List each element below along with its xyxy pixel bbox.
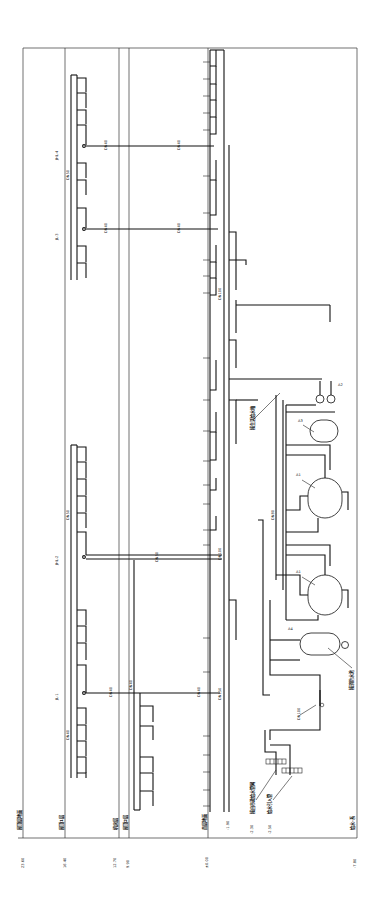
elevation-value: 12.70	[113, 857, 117, 868]
riser-label: JL-3	[55, 233, 59, 241]
elevation-label: 屋顶1层	[58, 814, 65, 830]
elevation-value: -2.30	[250, 824, 254, 834]
pump-a2: A2	[286, 381, 343, 412]
elevation-value: 9.90	[126, 859, 130, 868]
plumbing-riser-diagram: 23.60 屋顶层地面 16.40 屋顶1层 12.70 机房层 9.90 屋顶…	[0, 0, 375, 907]
pipe-size-label: DN50	[66, 169, 70, 180]
elevation-value: 16.40	[63, 857, 67, 868]
elevation-value: -2.50	[268, 824, 272, 834]
tank-a4: A4 接消防水池	[270, 627, 355, 690]
lower-left-branch-group	[134, 560, 153, 810]
tank-a1-upper: A1	[286, 445, 348, 532]
note-label: 接消防水池	[348, 669, 355, 690]
elevation-labels: 23.60 屋顶层地面 16.40 屋顶1层 12.70 机房层 9.90 屋顶…	[16, 782, 357, 868]
tank-feed-pipes	[276, 395, 286, 620]
note-label: 接自市政给水管网	[249, 782, 256, 814]
equipment-tag: A4	[288, 627, 293, 631]
equipment-tag: A1	[296, 570, 301, 574]
equipment-tag: A2	[338, 383, 343, 387]
tank-a3: A3	[298, 419, 338, 442]
pipe-size-label: DN40	[104, 139, 108, 150]
pipe-size-label: DN40	[177, 139, 181, 150]
pipe-size-labels: DN50 DN50 DN40 DN40 DN100 DN100 DN150 DN…	[66, 169, 301, 740]
elevation-label: 屋顶2层	[122, 814, 129, 830]
pipe-size-label: DN100	[218, 547, 222, 560]
elevation-value: -7.80	[353, 858, 357, 868]
tank-a1-lower: A1	[276, 545, 348, 620]
outlet-stubs	[203, 62, 210, 806]
pipe-size-label: DN40	[104, 222, 108, 233]
pipe-size-label: DN100	[218, 287, 222, 300]
pipe-size-label: DN80	[271, 509, 275, 520]
pipe-size-label: DN150	[218, 687, 222, 700]
equipment-tag: A1	[296, 473, 301, 477]
upper-branch-group-top: JHL-4 JL-3 DN40 DN40 DN40 DN40	[55, 75, 218, 280]
pipe-size-label: DN40	[109, 686, 113, 697]
pipe-size-label: DN100	[297, 707, 301, 720]
note-label: 接生活给水箱	[249, 405, 256, 430]
equipment-tag: A3	[298, 419, 303, 423]
upper-branch-group-middle: JHL-2 JL-1 DN50 DN40 DN40	[55, 445, 222, 778]
elevation-value: 23.60	[21, 857, 25, 868]
pipe-size-label: DN40	[66, 729, 70, 740]
pipe-size-label: DN40	[129, 679, 133, 690]
pipe-size-label: DN50	[155, 551, 159, 562]
riser-label: JHL-4	[55, 150, 59, 161]
pipe-size-label: DN40	[177, 222, 181, 233]
note-label: 给水引入管	[266, 793, 273, 814]
elevation-value: -1.90	[226, 820, 230, 830]
riser-label: JL-1	[55, 693, 59, 701]
footer-label: 给水-系	[349, 815, 356, 830]
elevation-label: 机房层	[112, 817, 119, 830]
elevation-label: 首层地面	[201, 813, 208, 830]
riser-label: JHL-2	[55, 556, 59, 566]
elevation-label: 屋顶层地面	[16, 809, 23, 830]
pipe-size-label: DN50	[66, 509, 70, 520]
pipe-size-label: DN40	[197, 686, 201, 697]
floor-lines	[18, 48, 357, 838]
elevation-value: ±0.00	[205, 856, 209, 868]
